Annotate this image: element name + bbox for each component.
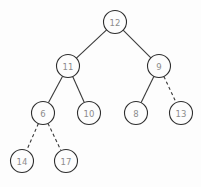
tree-node-10[interactable]: 10 — [78, 102, 101, 125]
node-circle-13 — [170, 102, 193, 125]
tree-edge-6-14 — [27, 124, 39, 151]
tree-node-14[interactable]: 14 — [11, 150, 34, 173]
tree-edge-12-9 — [123, 30, 151, 58]
tree-edge-9-13 — [164, 76, 176, 102]
binary-tree-figure: 121196108131417 — [0, 0, 201, 187]
edges-layer — [27, 30, 177, 151]
tree-canvas: 121196108131417 — [0, 0, 201, 187]
node-circle-12 — [104, 11, 127, 34]
node-circle-10 — [78, 102, 101, 125]
tree-edge-12-11 — [76, 30, 106, 58]
node-circle-14 — [11, 150, 34, 173]
tree-node-8[interactable]: 8 — [125, 102, 148, 125]
tree-node-13[interactable]: 13 — [170, 102, 193, 125]
tree-edge-11-6 — [48, 76, 62, 103]
tree-node-12[interactable]: 12 — [104, 11, 127, 34]
tree-node-11[interactable]: 11 — [57, 55, 80, 78]
node-circle-8 — [125, 102, 148, 125]
node-circle-9 — [148, 55, 171, 78]
tree-node-6[interactable]: 6 — [32, 102, 55, 125]
node-circle-11 — [57, 55, 80, 78]
node-circle-6 — [32, 102, 55, 125]
node-circle-17 — [55, 150, 78, 173]
tree-edge-6-17 — [48, 123, 61, 150]
tree-node-9[interactable]: 9 — [148, 55, 171, 78]
tree-edge-9-8 — [141, 76, 154, 102]
tree-edge-11-10 — [73, 77, 85, 103]
tree-node-17[interactable]: 17 — [55, 150, 78, 173]
